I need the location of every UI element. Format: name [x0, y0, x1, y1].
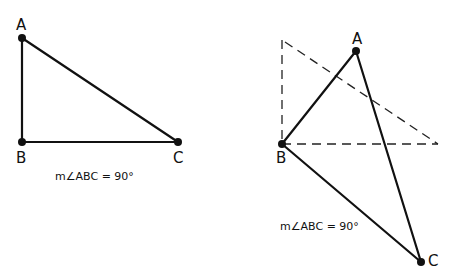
triangle-abc-outline	[22, 38, 178, 142]
diagram-canvas: A B C m∠ABC = 90° A B C m∠ABC = 90°	[0, 0, 452, 276]
label-b: B	[16, 149, 26, 167]
original-triangle: A B C m∠ABC = 90°	[16, 16, 183, 183]
ghost-hypotenuse	[285, 42, 438, 144]
point-b	[278, 140, 286, 148]
label-c: C	[173, 149, 183, 167]
label-a: A	[352, 30, 363, 48]
point-c	[417, 258, 425, 266]
point-b	[18, 138, 26, 146]
label-c: C	[428, 252, 438, 270]
angle-measure-label: m∠ABC = 90°	[280, 220, 359, 233]
ghost-triangle	[282, 40, 438, 144]
point-a	[352, 47, 360, 55]
rotated-figure: A B C m∠ABC = 90°	[276, 30, 438, 270]
label-a: A	[16, 16, 27, 34]
angle-measure-label: m∠ABC = 90°	[55, 170, 134, 183]
label-b: B	[276, 149, 286, 167]
point-a	[18, 34, 26, 42]
point-c	[174, 138, 182, 146]
